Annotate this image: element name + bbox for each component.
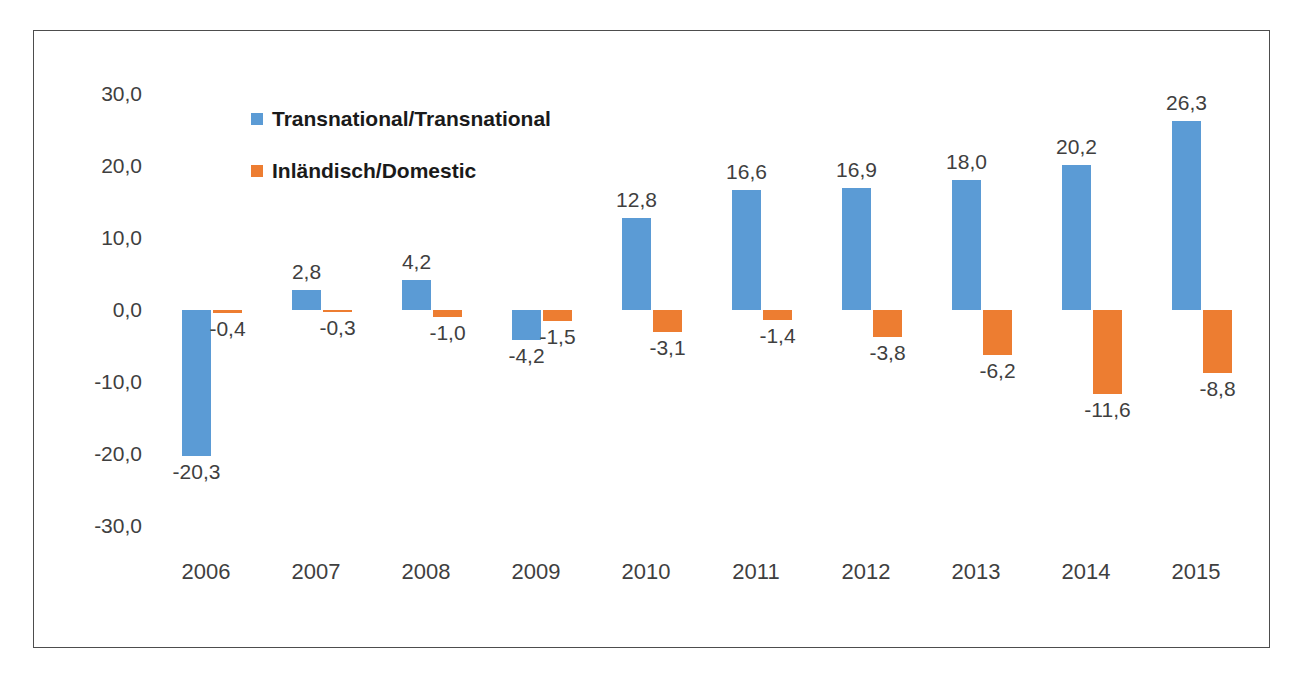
- bar-group: -20,3-0,42006: [151, 31, 261, 647]
- data-label: 4,2: [377, 250, 457, 274]
- x-axis-tick-label: 2015: [1141, 559, 1251, 585]
- y-axis-tick-label: 30,0: [42, 82, 142, 106]
- bar-domestic[interactable]: [213, 310, 242, 313]
- bar-domestic[interactable]: [983, 310, 1012, 355]
- bar-domestic[interactable]: [1093, 310, 1122, 394]
- legend-label-domestic: Inländisch/Domestic: [272, 159, 476, 183]
- data-label: -0,4: [188, 317, 268, 341]
- data-label: 18,0: [927, 150, 1007, 174]
- x-axis-tick-label: 2010: [591, 559, 701, 585]
- bar-transnational[interactable]: [292, 290, 321, 310]
- data-label: -11,6: [1068, 398, 1148, 422]
- data-label: -0,3: [298, 316, 378, 340]
- data-label: 20,2: [1037, 135, 1117, 159]
- bar-group: 26,3-8,82015: [1141, 31, 1251, 647]
- data-label: 26,3: [1147, 91, 1227, 115]
- data-label: -1,4: [738, 324, 818, 348]
- y-axis-tick-label: -30,0: [42, 514, 142, 538]
- data-label: -1,0: [408, 321, 488, 345]
- data-label: -8,8: [1178, 377, 1258, 401]
- data-label: -1,5: [518, 325, 598, 349]
- bar-domestic[interactable]: [1203, 310, 1232, 373]
- bar-group: 20,2-11,62014: [1031, 31, 1141, 647]
- data-label: 16,9: [817, 158, 897, 182]
- bar-transnational[interactable]: [402, 280, 431, 310]
- y-axis-tick-label: 10,0: [42, 226, 142, 250]
- x-axis-tick-label: 2014: [1031, 559, 1141, 585]
- bar-domestic[interactable]: [763, 310, 792, 320]
- y-axis-tick-label: 20,0: [42, 154, 142, 178]
- x-axis-tick-label: 2013: [921, 559, 1031, 585]
- bar-domestic[interactable]: [323, 310, 352, 312]
- bar-domestic[interactable]: [653, 310, 682, 332]
- bar-domestic[interactable]: [873, 310, 902, 337]
- y-axis-tick-label: -10,0: [42, 370, 142, 394]
- data-label: -3,8: [848, 341, 928, 365]
- legend-swatch-icon-transnational: [251, 113, 263, 125]
- bar-group: 16,6-1,42011: [701, 31, 811, 647]
- data-label: -20,3: [157, 460, 237, 484]
- data-label: -6,2: [958, 359, 1038, 383]
- chart-frame: 30,020,010,00,0-10,0-20,0-30,0 -20,3-0,4…: [33, 30, 1270, 648]
- y-axis-tick-label: -20,0: [42, 442, 142, 466]
- bar-transnational[interactable]: [952, 180, 981, 310]
- data-label: 2,8: [267, 260, 347, 284]
- x-axis-tick-label: 2012: [811, 559, 921, 585]
- bar-domestic[interactable]: [543, 310, 572, 321]
- bar-domestic[interactable]: [433, 310, 462, 317]
- bar-transnational[interactable]: [842, 188, 871, 310]
- x-axis-tick-label: 2007: [261, 559, 371, 585]
- x-axis-tick-label: 2009: [481, 559, 591, 585]
- chart-legend: Transnational/Transnational Inländisch/D…: [251, 107, 551, 211]
- legend-swatch-icon-domestic: [251, 165, 263, 177]
- y-axis-tick-label: 0,0: [42, 298, 142, 322]
- data-label: 12,8: [597, 188, 677, 212]
- bar-transnational[interactable]: [732, 190, 761, 310]
- data-label: 16,6: [707, 160, 787, 184]
- legend-item-transnational: Transnational/Transnational: [251, 107, 551, 131]
- bar-group: 16,9-3,82012: [811, 31, 921, 647]
- bar-group: 18,0-6,22013: [921, 31, 1031, 647]
- x-axis-tick-label: 2011: [701, 559, 811, 585]
- bar-transnational[interactable]: [1062, 165, 1091, 310]
- plot-area: 30,020,010,00,0-10,0-20,0-30,0 -20,3-0,4…: [34, 31, 1269, 647]
- data-label: -3,1: [628, 336, 708, 360]
- legend-item-domestic: Inländisch/Domestic: [251, 159, 551, 183]
- legend-label-transnational: Transnational/Transnational: [272, 107, 551, 131]
- bar-group: 12,8-3,12010: [591, 31, 701, 647]
- bar-transnational[interactable]: [1172, 121, 1201, 310]
- x-axis-tick-label: 2006: [151, 559, 261, 585]
- x-axis-tick-label: 2008: [371, 559, 481, 585]
- bar-transnational[interactable]: [622, 218, 651, 310]
